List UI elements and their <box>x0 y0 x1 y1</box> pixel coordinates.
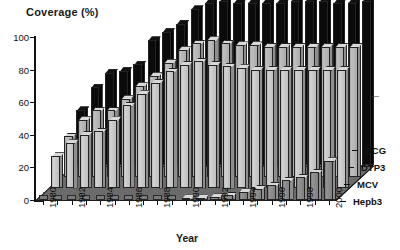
bar-front-face <box>237 68 246 189</box>
x-tick-mark <box>286 201 287 205</box>
legend-item-dtp3: DTP3 <box>361 162 385 173</box>
bar-front-face <box>267 185 276 200</box>
x-tick-mark <box>172 201 173 205</box>
bar-front-face <box>266 70 275 189</box>
x-tick-mark <box>57 201 58 205</box>
bar-front-face <box>108 120 117 188</box>
bar-front-face <box>294 70 303 189</box>
bar-front-face <box>180 65 189 189</box>
y-tick-label: 20 <box>18 162 29 173</box>
bar-dtp3-2000 <box>349 47 358 177</box>
legend-tick <box>348 167 354 168</box>
x-tick-mark <box>243 201 244 205</box>
legend-item-hepb3: Hepb3 <box>353 196 382 207</box>
x-tick-mark <box>115 201 116 205</box>
x-tick-mark <box>86 201 87 205</box>
y-tick-label: 0 <box>24 195 29 206</box>
bar-front-face <box>349 47 358 177</box>
y-tick-mark <box>30 102 34 103</box>
x-tick-mark <box>157 201 158 205</box>
bar-front-face <box>210 197 219 200</box>
bar-mcv-1991 <box>208 65 217 189</box>
x-tick-mark <box>200 201 201 205</box>
bar-mcv-1986 <box>137 94 146 189</box>
stray-mark: — <box>372 92 379 99</box>
bar-front-face <box>324 161 333 200</box>
bar-front-face <box>208 65 217 189</box>
bar-mcv-1981 <box>66 143 75 189</box>
bar-front-face <box>223 66 232 188</box>
x-tick-mark <box>272 201 273 205</box>
y-axis-title: Coverage (%) <box>26 6 99 18</box>
bar-front-face <box>123 105 132 188</box>
bar-mcv-1989 <box>180 65 189 189</box>
bar-front-face <box>94 131 103 188</box>
x-tick-mark <box>43 201 44 205</box>
bar-mcv-1987 <box>151 83 160 189</box>
bar-mcv-1993 <box>237 68 246 189</box>
y-tick-mark <box>30 167 34 168</box>
legend-tick <box>344 184 350 185</box>
bar-front-face <box>166 71 175 188</box>
y-axis-line <box>34 36 36 201</box>
bar-front-face <box>251 70 260 189</box>
x-tick-mark <box>186 201 187 205</box>
bar-mcv-1982 <box>80 135 89 189</box>
bar-mcv-1984 <box>108 120 117 188</box>
y-tick-label: 60 <box>18 97 29 108</box>
bar-front-face <box>151 83 160 189</box>
bar-front-face <box>137 94 146 189</box>
bar-mcv-1985 <box>123 105 132 188</box>
x-tick-mark <box>257 201 258 205</box>
legend-item-mcv: MCV <box>357 179 378 190</box>
bar-front-face <box>362 1 371 166</box>
y-tick-mark <box>30 200 34 201</box>
bar-front-face <box>280 70 289 189</box>
bar-mcv-1990 <box>194 61 203 188</box>
x-tick-mark <box>329 201 330 205</box>
bar-front-face <box>80 135 89 189</box>
y-tick-mark <box>30 37 34 38</box>
bar-front-face <box>66 143 75 189</box>
bar-mcv-2000 <box>337 70 346 189</box>
bar-front-face <box>194 61 203 188</box>
bar-mcv-1980 <box>51 156 60 189</box>
bar-plate <box>124 195 133 200</box>
coverage-3d-bar-chart: Coverage (%) Year 020406080100 198019821… <box>0 0 400 250</box>
x-tick-mark <box>100 201 101 205</box>
y-tick-mark <box>30 70 34 71</box>
y-tick-label: 100 <box>13 32 29 43</box>
bar-front-face <box>51 156 60 189</box>
legend-tick <box>352 150 358 151</box>
x-tick-mark <box>143 201 144 205</box>
bar-bcg-2000 <box>362 1 371 166</box>
y-tick-label: 80 <box>18 64 29 75</box>
bar-mcv-1983 <box>94 131 103 188</box>
legend-item-bcg: BCG <box>365 145 386 156</box>
bar-hepb3-1992 <box>210 197 219 200</box>
bar-mcv-1997 <box>294 70 303 189</box>
legend-tick <box>340 201 346 202</box>
bar-mcv-1994 <box>251 70 260 189</box>
bar-mcv-1996 <box>280 70 289 189</box>
bar-hepb3-2000 <box>324 161 333 200</box>
bar-mcv-1988 <box>166 71 175 188</box>
y-tick-label: 40 <box>18 129 29 140</box>
x-axis-title: Year <box>176 232 198 244</box>
bar-plate <box>67 195 76 200</box>
x-tick-mark <box>129 201 130 205</box>
bar-hepb3-1996 <box>267 185 276 200</box>
x-tick-mark <box>72 201 73 205</box>
bar-front-face <box>337 70 346 189</box>
bar-mcv-1995 <box>266 70 275 189</box>
bar-mcv-1992 <box>223 66 232 188</box>
y-tick-mark <box>30 135 34 136</box>
x-tick-mark <box>315 201 316 205</box>
x-tick-mark <box>300 201 301 205</box>
x-tick-mark <box>229 201 230 205</box>
x-tick-mark <box>215 201 216 205</box>
